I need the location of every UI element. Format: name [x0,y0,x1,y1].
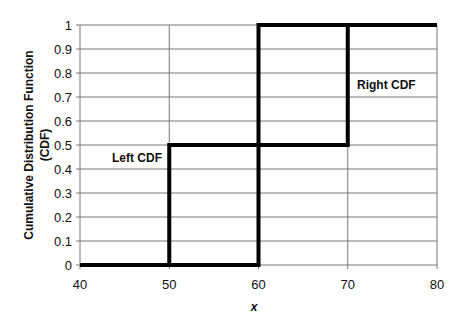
y-tick-label: 0 [65,258,72,273]
x-tick-label: 80 [430,277,444,292]
x-tick-label: 70 [341,277,355,292]
y-tick-label: 0.8 [54,66,72,81]
y-tick-label: 0.1 [54,234,72,249]
y-tick-label: 0.3 [54,186,72,201]
y-tick-label: 1 [65,18,72,33]
x-tick-label: 50 [162,277,176,292]
y-tick-label: 0.7 [54,90,72,105]
y-tick-label: 0.5 [54,138,72,153]
x-tick-label: 40 [73,277,87,292]
y-axis-label: Cumulative Distribution Function [22,50,36,239]
annotation-left-cdf: Left CDF [112,151,162,165]
y-tick-label: 0.2 [54,210,72,225]
annotation-right-cdf: Right CDF [357,78,416,92]
cdf-chart: 00.10.20.30.40.50.60.70.80.91 4050607080… [0,0,461,329]
y-axis-ticks: 00.10.20.30.40.50.60.70.80.91 [54,18,72,273]
x-axis-ticks: 4050607080 [73,277,444,292]
x-tick-label: 60 [251,277,265,292]
x-axis-label: x [250,300,259,314]
y-tick-label: 0.4 [54,162,72,177]
y-tick-label: 0.9 [54,42,72,57]
y-axis-label-sub: (CDF) [38,129,52,162]
y-tick-label: 0.6 [54,114,72,129]
